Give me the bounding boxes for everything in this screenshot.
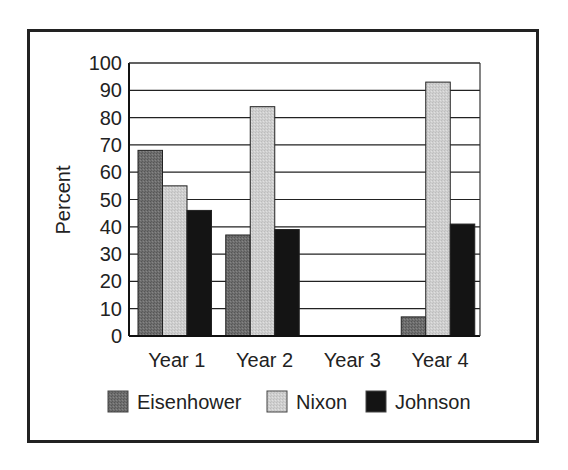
legend: EisenhowerNixonJohnson (108, 391, 471, 413)
bar-eisenhower-year-4 (401, 317, 426, 336)
legend-label-eisenhower: Eisenhower (137, 391, 242, 413)
y-tick-label: 50 (100, 189, 122, 211)
y-axis-title: Percent (52, 165, 74, 234)
y-tick-label: 80 (100, 107, 122, 129)
y-tick-label: 10 (100, 298, 122, 320)
bar-eisenhower-year-2 (226, 235, 251, 336)
y-tick-label: 30 (100, 243, 122, 265)
x-category-label: Year 2 (236, 349, 293, 371)
y-tick-label: 20 (100, 270, 122, 292)
bar-johnson-year-2 (275, 230, 300, 336)
legend-label-nixon: Nixon (296, 391, 347, 413)
y-tick-label: 40 (100, 216, 122, 238)
y-tick-labels: 0102030405060708090100 (89, 52, 122, 347)
y-tick-label: 90 (100, 79, 122, 101)
legend-swatch-johnson (366, 391, 386, 412)
x-category-label: Year 4 (412, 349, 469, 371)
x-category-label: Year 1 (148, 349, 205, 371)
y-tick-label: 60 (100, 161, 122, 183)
legend-swatch-nixon (267, 391, 287, 412)
bar-eisenhower-year-1 (138, 150, 163, 336)
bar-johnson-year-4 (450, 224, 475, 336)
y-tick-label: 70 (100, 134, 122, 156)
bar-nixon-year-2 (250, 107, 275, 336)
bar-chart: 0102030405060708090100 Year 1Year 2Year … (0, 0, 568, 470)
bar-nixon-year-1 (163, 186, 188, 336)
bars (138, 82, 475, 336)
bar-johnson-year-1 (187, 210, 212, 336)
legend-label-johnson: Johnson (395, 391, 471, 413)
x-category-label: Year 3 (324, 349, 381, 371)
y-tick-label: 100 (89, 52, 122, 74)
legend-swatch-eisenhower (108, 391, 128, 412)
y-tick-label: 0 (111, 325, 122, 347)
x-category-labels: Year 1Year 2Year 3Year 4 (148, 349, 468, 371)
bar-nixon-year-4 (426, 82, 451, 336)
